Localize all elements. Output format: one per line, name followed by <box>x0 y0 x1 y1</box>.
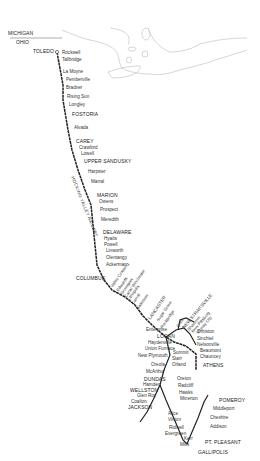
station-tallbridge: Tallbridge <box>62 58 82 63</box>
station-owens: Owens <box>99 200 113 205</box>
toledo-marker <box>55 50 58 53</box>
station-cheshire: Cheshire <box>210 416 228 421</box>
station-hyatts: Hyatts <box>104 237 117 242</box>
station-enterprise: Enterprise <box>146 328 167 333</box>
station-columbus: COLUMBUS <box>76 276 105 281</box>
station-pt-pleasant: PT. PLEASANT <box>205 440 241 445</box>
station-athens: ATHENS <box>203 363 224 368</box>
station-new-plymouth: New Plymouth <box>138 354 168 359</box>
station-pomeroy: POMEROY <box>219 398 245 403</box>
station-nelsonville: Nelsonville <box>197 343 219 348</box>
lake-shore <box>62 30 247 75</box>
station-lowell: Lowell <box>81 152 94 157</box>
station-mills: Mills <box>180 443 189 448</box>
station-oreola: Oreola <box>151 363 165 368</box>
station-bradner: Bradner <box>66 86 82 91</box>
station-sinchtel: Sinchtel <box>197 337 213 342</box>
station-glen-roy: Glen Roy <box>137 394 156 399</box>
station-orbiston: Orbiston <box>197 330 214 335</box>
station-crawford: Crawford <box>79 146 98 151</box>
station-radcliff: Radcliff <box>178 384 193 389</box>
station-starr: Starr <box>172 357 182 362</box>
station-summit: Summit <box>173 351 189 356</box>
station-delaware: DELAWARE <box>103 230 132 235</box>
station-gallipolis: GALLIPOLIS <box>198 450 228 455</box>
station-rockwell: Rockwell <box>62 51 80 56</box>
station-alice: Alice <box>168 412 178 417</box>
station-harpster: Harpster <box>88 170 106 175</box>
station-haydenville: Haydenville <box>148 341 172 346</box>
station-prospect: Prospect <box>100 208 118 213</box>
station-chauncey: Chauncey <box>200 355 221 360</box>
station-linworth: Linworth <box>106 249 123 254</box>
station-la-moyne: La Moyne <box>63 70 83 75</box>
station-logan: LOGAN <box>157 334 175 339</box>
main-line <box>57 52 196 370</box>
station-oreton: Oreton <box>177 377 191 382</box>
station-orland: Orland <box>172 363 186 368</box>
station-middleport: Middleport <box>213 407 234 412</box>
station-hawks: Hawks <box>179 391 193 396</box>
station-jackson: JACKSON <box>128 405 152 410</box>
station-minerton: Minerton <box>180 397 198 402</box>
station-powell: Powell <box>104 243 118 248</box>
station-mcarthur: McArthur <box>146 370 165 375</box>
station-marion: MARION <box>97 193 118 198</box>
station-longley: Longley <box>69 103 85 108</box>
station-carey: CAREY <box>76 139 94 144</box>
station-rising-sun: Rising Sun <box>67 95 89 100</box>
station-beaumont: Beaumont <box>200 349 221 354</box>
station-meredith: Meredith <box>101 218 119 223</box>
state-label-michigan: MICHIGAN <box>8 31 33 36</box>
station-kerr: Kerr <box>184 437 193 442</box>
station-fostoria: FOSTORIA <box>72 112 98 117</box>
station-vinton: Vinton <box>168 418 181 423</box>
station-addison: Addison <box>210 425 227 430</box>
station-upper-sandusky: UPPER SANDUSKY <box>84 159 132 164</box>
station-union-furnace: Union Furnace <box>145 347 175 352</box>
station-alvada: Alvada <box>74 126 88 131</box>
railway-map: MICHIGAN OHIO TOLEDO Rockwell Tallbridge… <box>0 0 260 461</box>
station-marral: Marral <box>91 180 104 185</box>
station-pemberville: Pemberville <box>66 78 90 83</box>
station-olentangy: Olentangy <box>106 256 127 261</box>
station-ridwell: Ridwell <box>169 426 184 431</box>
state-label-ohio: OHIO <box>16 40 29 45</box>
station-toledo: TOLEDO <box>33 49 54 54</box>
